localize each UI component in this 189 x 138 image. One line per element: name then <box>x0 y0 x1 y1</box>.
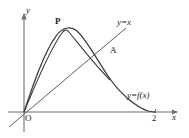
identity-line-equation-label: y=x <box>117 18 131 27</box>
function-curve-equation-label: y=f(x) <box>127 91 150 100</box>
x-axis-label: x <box>172 113 176 122</box>
point-label-p: P <box>55 17 61 26</box>
x-tick-label-2: 2 <box>152 114 156 123</box>
origin-label: O <box>25 114 32 123</box>
point-label-a: A <box>110 46 117 55</box>
y-axis-label: y <box>26 6 30 15</box>
secondary-curve <box>24 30 110 112</box>
figure-container: y x O P A 2 y=x y=f(x) <box>0 0 189 138</box>
